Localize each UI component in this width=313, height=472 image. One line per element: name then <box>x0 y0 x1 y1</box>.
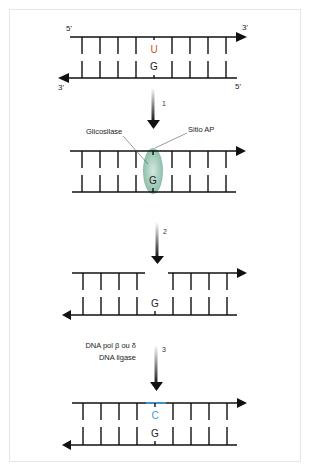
guanine-base: G <box>151 428 159 439</box>
dna-ligase-label: DNA ligase <box>99 353 136 362</box>
arrowhead-icon <box>58 73 69 83</box>
arrowhead-icon <box>62 310 71 320</box>
uracil-base: U <box>150 44 157 55</box>
step-1-label: 1 <box>162 100 166 107</box>
bottom-3prime-label: 3' <box>58 83 64 92</box>
ap-site-pointer <box>155 133 187 148</box>
step-1-arrow <box>147 88 160 129</box>
panel-4-dna <box>62 398 247 450</box>
top-5prime-label: 5' <box>66 24 72 33</box>
guanine-base: G <box>151 298 159 309</box>
bottom-5prime-label: 5' <box>235 82 241 91</box>
guanine-base: G <box>149 175 157 186</box>
arrowhead-icon <box>62 440 71 450</box>
arrowhead-icon <box>237 268 247 278</box>
step-3-label: 3 <box>162 346 166 353</box>
panel-1-dna <box>58 32 247 83</box>
cytosine-base: C <box>151 410 158 421</box>
guanine-base: G <box>150 61 158 72</box>
arrowhead-icon <box>237 398 247 408</box>
step-2-label: 2 <box>163 228 167 235</box>
arrowhead-icon <box>236 146 246 156</box>
ber-diagram: 5' 3' 3' 5' U G 1 Glicosilase Sitio AP G <box>0 0 313 472</box>
panel-3-dna <box>62 268 247 320</box>
top-3prime-label: 3' <box>242 23 248 32</box>
dna-polymerase-label: DNA pol β ou δ <box>85 341 136 350</box>
arrowhead-icon <box>236 32 247 42</box>
glycosylase-label: Glicosilase <box>86 127 122 136</box>
ap-site-label: Sitio AP <box>188 125 214 134</box>
